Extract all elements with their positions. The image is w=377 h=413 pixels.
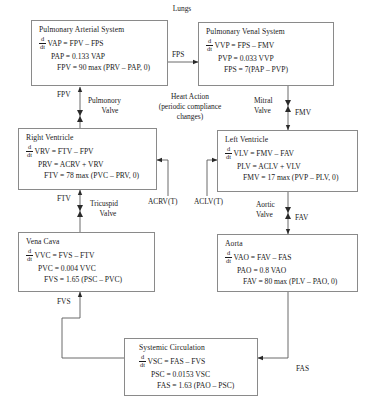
equation-row: PAO = 0.8 VAO [225,265,351,276]
equation-text: PRV = ACRV + VRV [38,159,103,170]
node-title: Pulmonary Arterial System [39,25,161,35]
flow-label-aclv: ACLV(T) [194,197,223,207]
equation-row: FAV = 80 max (PLV – PAO, 0) [225,276,351,287]
node-pulmonary-arterial-system: Pulmonary Arterial System d dt VAP = FPV… [31,20,168,86]
equation-text: FMV = 17 max (PVP – PLV, 0) [243,172,338,183]
equation-row: PVP = 0.033 VVP [206,53,327,64]
node-equations: d dt VAO = FAV – FAS PAO = 0.8 VAO FAV =… [225,250,351,287]
equation-row: PLV = ACLV + VLV [225,161,351,172]
equation-row: d dt VAP = FPV – FPS [39,36,161,51]
node-pulmonary-venal-system: Pulmonary Venal System d dt VVP = FPS – … [198,22,334,86]
equation-row: PVC = 0.004 VVC [26,263,148,274]
aortic-valve-glyph [285,207,291,219]
node-equations: d dt VLV = FMV – FAV PLV = ACLV + VLV FM… [225,146,351,183]
flow-label-acrv: ACRV(T) [148,197,177,207]
equation-text: VVC = FVS – FTV [34,250,94,261]
equation-text: PAP = 0.133 VAP [51,51,105,62]
valve-label-pulmonory-line1: Pulmonory [88,96,121,106]
equation-text: FVS = 1.65 (PSC – PVC) [44,274,122,285]
node-aorta: Aorta d dt VAO = FAV – FAS PAO = 0.8 VAO… [217,234,358,292]
valve-label-aortic-line1: Aortic [256,200,275,210]
derivative-operator: d dt [206,38,213,53]
node-left-ventricle: Left Ventricle d dt VLV = FMV – FAV PLV … [217,130,358,192]
equation-text: PVC = 0.004 VVC [38,263,96,274]
pulmonory-valve-glyph [77,110,83,122]
equation-text: FTV = 78 max (PVC – PRV, 0) [44,170,139,181]
node-vena-cava: Vena Cava d dt VVC = FVS – FTV PVC = 0.0… [18,232,155,292]
valve-label-mitral-line2: Valve [254,106,271,116]
valve-label-aortic-line2: Valve [256,210,273,220]
equation-row: d dt VAO = FAV – FAS [225,250,351,265]
node-equations: d dt VSC = FAS – FVS PSC = 0.0153 VSC FA… [139,354,251,391]
equation-row: FMV = 17 max (PVP – PLV, 0) [225,172,351,183]
equation-text: VLV = FMV – FAV [233,148,293,159]
flow-label-fas: FAS [296,364,309,374]
node-title: Right Ventricle [26,133,150,143]
equation-row: PSC = 0.0153 VSC [139,369,251,380]
derivative-operator: d dt [225,250,232,265]
node-equations: d dt VAP = FPV – FPS PAP = 0.133 VAP FPV… [39,36,161,73]
node-right-ventricle: Right Ventricle d dt VRV = FTV – FPV PRV… [18,128,157,190]
flow-label-fps: FPS [172,50,184,60]
heart-action-line1: Heart Action [145,92,235,102]
equation-text: VAO = FAV – FAS [233,252,291,263]
equation-text: VVP = FPS – FMV [214,40,274,51]
flow-label-ftv: FTV [57,194,71,204]
equation-text: VAP = FPV – FPS [47,38,103,49]
equation-row: PAP = 0.133 VAP [39,51,161,62]
equation-row: FPS = 7(PAP – PVP) [206,64,327,75]
derivative-operator: d dt [26,144,33,159]
equation-text: FPS = 7(PAP – PVP) [224,64,288,75]
equation-row: FVS = 1.65 (PSC – PVC) [26,274,148,285]
equation-text: VRV = FTV – FPV [34,146,93,157]
equation-text: FAV = 80 max (PLV – PAO, 0) [243,276,337,287]
cardiovascular-model-diagram: Lungs Pulmonary Arterial System d dt VAP… [0,0,377,413]
derivative-operator: d dt [225,146,232,161]
equation-row: PRV = ACRV + VRV [26,159,150,170]
equation-text: PAO = 0.8 VAO [237,265,286,276]
node-title: Left Ventricle [225,135,351,145]
node-title: Aorta [225,239,351,249]
equation-row: d dt VLV = FMV – FAV [225,146,351,161]
equation-row: d dt VSC = FAS – FVS [139,354,251,369]
equation-text: VSC = FAS – FVS [147,356,205,367]
equation-text: PLV = ACLV + VLV [237,161,301,172]
tricuspid-valve-glyph [77,205,83,217]
flow-label-fpv: FPV [57,90,71,100]
flow-label-fmv: FMV [295,108,311,118]
equation-row: FAS = 1.63 (PAO – PSC) [139,380,251,391]
valve-label-pulmonory-line2: Valve [88,106,132,116]
node-title: Systemic Circulation [139,343,251,353]
equation-text: FPV = 90 max (PRV – PAP, 0) [57,62,150,73]
derivative-operator: d dt [26,248,33,263]
equation-text: PSC = 0.0153 VSC [151,369,210,380]
mitral-valve-glyph [285,100,291,112]
derivative-operator: d dt [139,354,146,369]
node-equations: d dt VVC = FVS – FTV PVC = 0.004 VVC FVS… [26,248,148,285]
valve-label-tricuspid-line2: Valve [90,209,126,219]
heart-action-line3: changes) [145,112,235,122]
node-title: Vena Cava [26,237,148,247]
equation-text: PVP = 0.033 VVP [218,53,274,64]
node-title: Pulmonary Venal System [206,27,327,37]
equation-row: FPV = 90 max (PRV – PAP, 0) [39,62,161,73]
equation-row: d dt VVC = FVS – FTV [26,248,148,263]
node-systemic-circulation: Systemic Circulation d dt VSC = FAS – FV… [124,338,258,396]
equation-row: d dt VRV = FTV – FPV [26,144,150,159]
valve-label-mitral-line1: Mitral [254,96,272,106]
equation-text: FAS = 1.63 (PAO – PSC) [157,380,234,391]
node-equations: d dt VVP = FPS – FMV PVP = 0.033 VVP FPS… [206,38,327,75]
derivative-operator: d dt [39,36,46,51]
equation-row: d dt VVP = FPS – FMV [206,38,327,53]
flow-label-fvs: FVS [57,297,71,307]
valve-label-tricuspid-line1: Tricuspid [90,199,118,209]
heart-action-line2: (periodic compliance [145,102,235,112]
lungs-label: Lungs [162,4,202,14]
flow-label-fav: FAV [295,213,308,223]
node-equations: d dt VRV = FTV – FPV PRV = ACRV + VRV FT… [26,144,150,181]
equation-row: FTV = 78 max (PVC – PRV, 0) [26,170,150,181]
